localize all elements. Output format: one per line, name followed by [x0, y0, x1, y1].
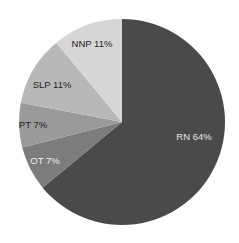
- slice-label-pt: PT 7%: [19, 119, 48, 130]
- slice-label-ot: OT 7%: [30, 155, 60, 166]
- pie-chart: RN 64%OT 7%PT 7%SLP 11%NNP 11%: [0, 0, 239, 243]
- pie-slices: [19, 19, 225, 225]
- slice-label-slp: SLP 11%: [33, 79, 72, 90]
- slice-label-rn: RN 64%: [176, 131, 212, 142]
- slice-label-nnp: NNP 11%: [72, 38, 113, 49]
